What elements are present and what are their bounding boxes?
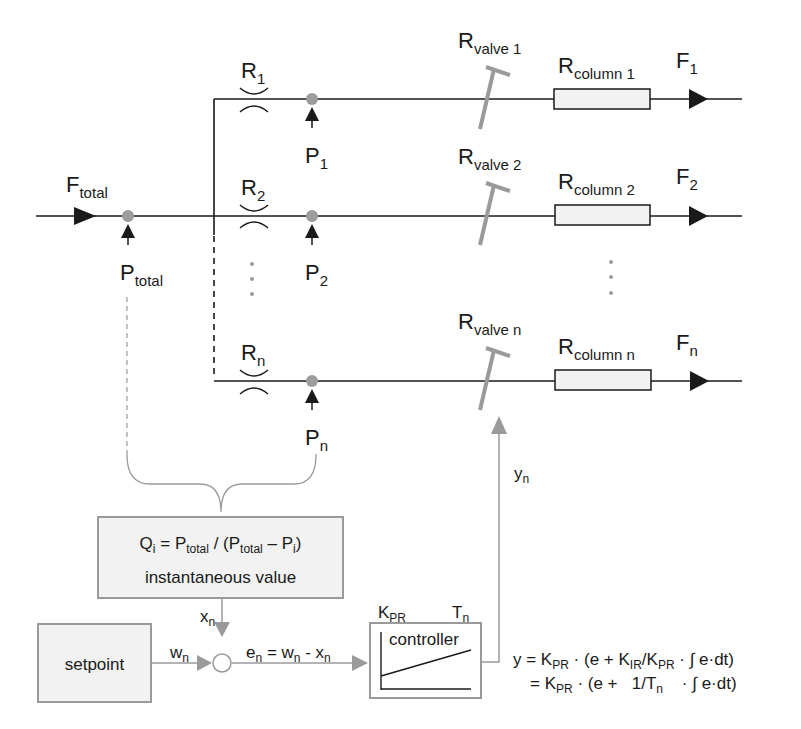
x-signal-label: xn [200, 608, 215, 625]
pressure-2-label: P2 [305, 262, 328, 284]
controller-formula-line-2: = KPR · (e + 1/Tn · ∫ e·dt) [530, 675, 737, 692]
pressure-1-label: P1 [305, 145, 328, 167]
pressure-total-label: Ptotal [120, 262, 163, 284]
ratio-calculation-box: Qi = Ptotal / (Ptotal – Pi) instantaneou… [97, 516, 344, 599]
y-signal-label: yn [514, 465, 529, 482]
flow-1-label: F1 [676, 50, 698, 72]
setpoint-box: setpoint [37, 623, 152, 703]
kpr-label: KPR [378, 604, 406, 621]
valve-n-label: Rvalve n [458, 311, 521, 333]
w-signal-label: wn [170, 644, 189, 661]
flow-2-label: F2 [676, 166, 698, 188]
setpoint-label: setpoint [39, 655, 150, 675]
controller-formula-line-1: y = KPR · (e + KIR/KPR · ∫ e·dt) [513, 651, 734, 668]
column-1-label: Rcolumn 1 [558, 55, 635, 77]
controller-label: controller [389, 630, 480, 650]
column-2-label: Rcolumn 2 [558, 171, 635, 193]
flow-n-label: Fn [676, 332, 698, 354]
valve-1-label: Rvalve 1 [458, 30, 521, 52]
restrictor-2-label: R2 [241, 177, 265, 199]
flow-total-label: Ftotal [66, 174, 108, 196]
tn-label: Tn [452, 604, 469, 621]
restrictor-n-label: Rn [241, 342, 265, 364]
ratio-formula: Qi = Ptotal / (Ptotal – Pi) [99, 534, 342, 554]
error-equation-label: en = wn - xn [246, 644, 331, 661]
controller-box: controller [369, 622, 482, 699]
instantaneous-value-label: instantaneous value [99, 568, 342, 588]
pressure-n-label: Pn [305, 427, 328, 449]
valve-2-label: Rvalve 2 [458, 146, 521, 168]
restrictor-1-label: R1 [241, 60, 265, 82]
column-n-label: Rcolumn n [558, 336, 635, 358]
